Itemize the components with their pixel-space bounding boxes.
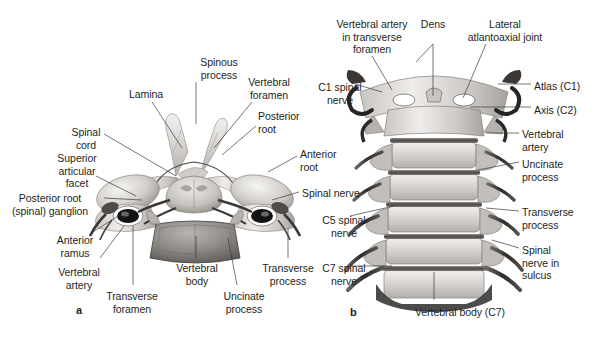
- panel-letter-a: a: [76, 304, 82, 316]
- label-axis-c2: Axis (C2): [534, 104, 592, 117]
- label-anterior-root: Anterior root: [300, 148, 362, 173]
- label-lateral-atlantoaxial-joint: Lateral atlantoaxial joint: [456, 18, 554, 43]
- label-vertebral-foramen: Vertebral foramen: [238, 76, 300, 101]
- label-vertebral-artery-in-transverse-foramen: Vertebral artery in transverse foramen: [320, 18, 424, 56]
- label-vertebral-body-c7: Vertebral body (C7): [398, 306, 522, 319]
- label-c1-spinal-nerve: C1 spinal nerve: [310, 81, 370, 106]
- label-spinal-nerve: Spinal nerve: [302, 187, 378, 200]
- label-vertebral-body: Vertebral body: [166, 262, 228, 287]
- label-vertebral-artery: Vertebral artery: [50, 266, 108, 291]
- spinal-cord-art: [166, 176, 222, 213]
- label-anterior-ramus: Anterior ramus: [46, 234, 104, 259]
- label-c5-spinal-nerve: C5 spinal nerve: [314, 214, 374, 239]
- label-posterior-root-ganglion: Posterior root (spinal) ganglion: [2, 192, 98, 217]
- label-transverse-foramen: Transverse foramen: [98, 290, 166, 315]
- label-uncinate-process-b: Uncinate process: [522, 158, 584, 183]
- label-vertebral-artery-b: Vertebral artery: [522, 128, 584, 153]
- vertebral-body-art: [147, 210, 244, 263]
- cervical-bodies-art: [382, 138, 486, 298]
- anatomy-figure: Spinous processVertebral foramenLaminaPo…: [0, 0, 597, 342]
- label-atlas-c1: Atlas (C1): [534, 80, 596, 93]
- label-spinal-cord: Spinal cord: [62, 126, 110, 151]
- label-c7-spinal-nerve: C7 spinal nerve: [314, 262, 374, 287]
- spinous-process-art: [166, 114, 228, 184]
- label-spinal-nerve-in-sulcus: Spinal nerve in sulcus: [522, 244, 580, 282]
- label-lamina: Lamina: [122, 88, 170, 101]
- panel-letter-b: b: [350, 306, 357, 318]
- label-superior-articular-facet: Superior articular facet: [46, 152, 108, 190]
- label-dens: Dens: [414, 18, 452, 31]
- label-transverse-process: Transverse process: [254, 262, 322, 287]
- label-posterior-root: Posterior root: [258, 110, 320, 135]
- label-transverse-process-b: Transverse process: [522, 206, 594, 231]
- label-uncinate-process: Uncinate process: [213, 290, 275, 315]
- panel-a-illustration: [90, 114, 300, 263]
